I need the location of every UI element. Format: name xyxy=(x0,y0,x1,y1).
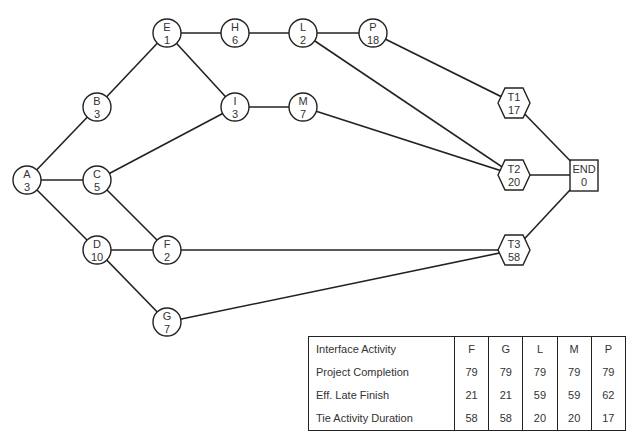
header-f: F xyxy=(455,337,489,361)
node-label: T1 xyxy=(508,91,521,103)
node-label: P xyxy=(369,21,376,33)
node-duration: 3 xyxy=(232,108,238,120)
table-cell: 62 xyxy=(591,383,625,406)
network-nodes: A3B3C5D10E1F2G7H6I3L2M7P18T117T220T358EN… xyxy=(13,19,598,336)
edge-m-t2 xyxy=(303,107,514,175)
node-label: T3 xyxy=(508,238,521,250)
table-cell: 21 xyxy=(489,383,523,406)
edge-d-g xyxy=(97,250,167,322)
edge-b-e xyxy=(97,33,167,107)
node-b: B3 xyxy=(83,93,111,121)
node-a: A3 xyxy=(13,166,41,194)
edge-p-t1 xyxy=(373,33,514,103)
row-label: Project Completion xyxy=(309,360,455,383)
interface-activity-table: Interface Activity F G L M P Project Com… xyxy=(308,336,626,431)
node-duration: 58 xyxy=(508,251,520,263)
row-label: Tie Activity Duration xyxy=(309,407,455,431)
header-p: P xyxy=(591,337,625,361)
node-label: A xyxy=(23,168,31,180)
node-t2: T220 xyxy=(498,160,530,190)
node-label: END xyxy=(572,163,595,175)
node-t3: T358 xyxy=(498,235,530,265)
table-cell: 58 xyxy=(489,407,523,431)
node-l: L2 xyxy=(289,19,317,47)
table-header-row: Interface Activity F G L M P xyxy=(309,337,626,361)
node-duration: 3 xyxy=(24,181,30,193)
node-label: I xyxy=(233,95,236,107)
table-cell: 79 xyxy=(523,360,557,383)
node-duration: 1 xyxy=(164,34,170,46)
node-e: E1 xyxy=(153,19,181,47)
node-duration: 6 xyxy=(232,34,238,46)
table-cell: 21 xyxy=(455,383,489,406)
table-cell: 79 xyxy=(591,360,625,383)
node-i: I3 xyxy=(221,93,249,121)
header-l: L xyxy=(523,337,557,361)
node-t1: T117 xyxy=(498,88,530,118)
figure-caption xyxy=(10,437,610,443)
node-duration: 7 xyxy=(164,323,170,335)
node-c: C5 xyxy=(83,166,111,194)
table-cell: 79 xyxy=(557,360,591,383)
table-cell: 20 xyxy=(557,407,591,431)
node-label: E xyxy=(163,21,170,33)
table-cell: 17 xyxy=(591,407,625,431)
node-duration: 17 xyxy=(508,104,520,116)
edge-c-f xyxy=(97,180,167,250)
node-duration: 0 xyxy=(581,176,587,188)
edge-e-i xyxy=(167,33,235,107)
edge-g-t3 xyxy=(167,250,514,322)
edge-a-b xyxy=(27,107,97,180)
header-g: G xyxy=(489,337,523,361)
table-row-project-completion: Project Completion 79 79 79 79 79 xyxy=(309,360,626,383)
table-cell: 20 xyxy=(523,407,557,431)
node-label: H xyxy=(231,21,239,33)
node-duration: 5 xyxy=(94,181,100,193)
node-duration: 2 xyxy=(300,34,306,46)
node-end: END0 xyxy=(570,160,598,191)
node-duration: 3 xyxy=(94,108,100,120)
node-g: G7 xyxy=(153,308,181,336)
node-h: H6 xyxy=(221,19,249,47)
node-label: L xyxy=(300,21,306,33)
node-m: M7 xyxy=(289,93,317,121)
node-duration: 7 xyxy=(300,108,306,120)
header-interface-activity: Interface Activity xyxy=(309,337,455,361)
header-m: M xyxy=(557,337,591,361)
node-duration: 10 xyxy=(91,251,103,263)
edge-c-i xyxy=(97,107,235,180)
node-label: T2 xyxy=(508,163,521,175)
table-row-tie-activity-duration: Tie Activity Duration 58 58 20 20 17 xyxy=(309,407,626,431)
node-duration: 2 xyxy=(164,251,170,263)
node-label: F xyxy=(164,238,171,250)
table-row-eff-late-finish: Eff. Late Finish 21 21 59 59 62 xyxy=(309,383,626,406)
node-p: P18 xyxy=(359,19,387,47)
node-d: D10 xyxy=(83,236,111,264)
table-cell: 79 xyxy=(489,360,523,383)
node-duration: 18 xyxy=(367,34,379,46)
table-cell: 79 xyxy=(455,360,489,383)
row-label: Eff. Late Finish xyxy=(309,383,455,406)
node-label: D xyxy=(93,238,101,250)
table-cell: 59 xyxy=(557,383,591,406)
node-label: G xyxy=(163,310,172,322)
table-cell: 58 xyxy=(455,407,489,431)
edge-a-d xyxy=(27,180,97,250)
node-duration: 20 xyxy=(508,176,520,188)
node-f: F2 xyxy=(153,236,181,264)
node-label: M xyxy=(298,95,307,107)
edge-l-t2 xyxy=(303,33,514,175)
table-cell: 59 xyxy=(523,383,557,406)
node-label: B xyxy=(93,95,100,107)
node-label: C xyxy=(93,168,101,180)
